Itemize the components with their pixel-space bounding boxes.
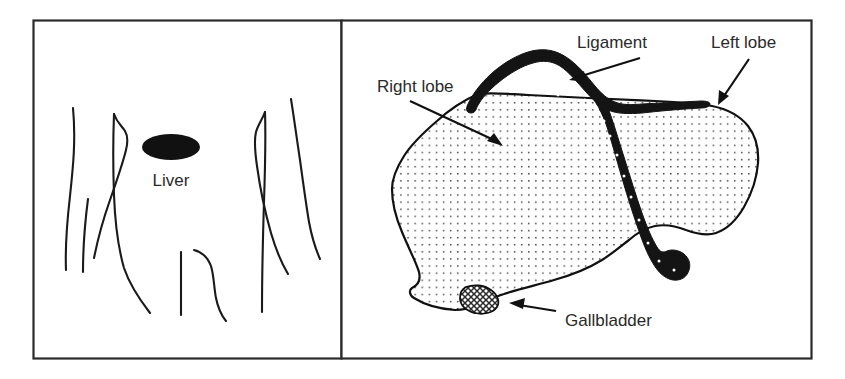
ligament-speck bbox=[603, 120, 606, 123]
left-panel: Liver bbox=[34, 21, 342, 359]
ligament-speck bbox=[647, 242, 650, 245]
liver-label: Liver bbox=[153, 171, 190, 190]
gallbladder-label: Gallbladder bbox=[565, 311, 652, 330]
ligament-speck bbox=[630, 196, 633, 199]
liver-location-marker bbox=[142, 134, 200, 160]
ligament-speck bbox=[532, 72, 535, 75]
ligament-speck bbox=[519, 79, 522, 82]
ligament-speck bbox=[616, 154, 619, 157]
ligament-label: Ligament bbox=[577, 33, 647, 52]
ligament-speck bbox=[609, 135, 612, 138]
ligament-speck bbox=[506, 87, 509, 90]
ligament-speck bbox=[557, 94, 560, 97]
ligament-speck bbox=[547, 75, 550, 78]
ligament-speck bbox=[596, 107, 599, 110]
figure-canvas: Liver bbox=[0, 0, 845, 379]
ligament-speck bbox=[494, 98, 497, 101]
ligament-speck bbox=[673, 269, 676, 272]
ligament-speck bbox=[544, 87, 547, 90]
right-panel: Right lobe Ligament Left lobe Gallbladde… bbox=[342, 21, 812, 359]
right-lobe-label: Right lobe bbox=[377, 77, 454, 96]
left-lobe-label: Left lobe bbox=[711, 33, 776, 52]
ligament-speck bbox=[481, 105, 484, 108]
ligament-speck bbox=[638, 219, 641, 222]
ligament-speck bbox=[658, 260, 661, 263]
ligament-speck bbox=[559, 81, 562, 84]
figure-root: Liver bbox=[0, 0, 845, 379]
ligament-speck bbox=[584, 99, 587, 102]
ligament-speck bbox=[572, 91, 575, 94]
ligament-speck bbox=[623, 175, 626, 178]
